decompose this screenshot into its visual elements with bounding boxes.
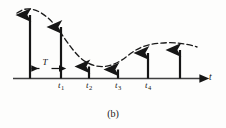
axis-variable-label: t xyxy=(209,72,212,82)
figure-caption: (b) xyxy=(0,108,226,119)
period-label: T xyxy=(42,57,47,67)
impulse-train-figure: T t t1 t2 t3 t4 (b) xyxy=(0,0,226,128)
tick-label-t2: t2 xyxy=(86,80,92,90)
tick-label-t3: t3 xyxy=(115,80,121,90)
tick-label-t4: t4 xyxy=(145,80,151,90)
tick-label-t1: t1 xyxy=(58,80,64,90)
